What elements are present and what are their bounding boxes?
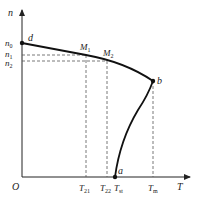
point-b: [151, 79, 155, 83]
label-a: a: [118, 165, 123, 176]
label-m2: M2: [102, 48, 114, 59]
dashed-guides: [22, 55, 153, 177]
x-tick-t21: T21: [79, 183, 90, 194]
label-m1: M1: [79, 42, 91, 53]
x-tick-t22: T22: [100, 183, 111, 194]
origin-label: O: [12, 181, 19, 192]
point-a: [113, 175, 117, 179]
label-b: b: [157, 75, 162, 86]
x-tick-tm: Tm: [148, 183, 158, 194]
y-tick-n0: n0: [5, 38, 13, 49]
x-axis-label: T: [177, 181, 184, 192]
x-tick-tst: Tst: [114, 183, 123, 194]
y-axis-label: n: [8, 7, 13, 18]
point-d: [20, 41, 24, 45]
label-d: d: [28, 32, 34, 43]
torque-speed-diagram: n T O n0 n1 n2 T21 T22 Tst Tm d M1 M2 b …: [0, 0, 202, 197]
characteristic-curve: [22, 43, 153, 177]
